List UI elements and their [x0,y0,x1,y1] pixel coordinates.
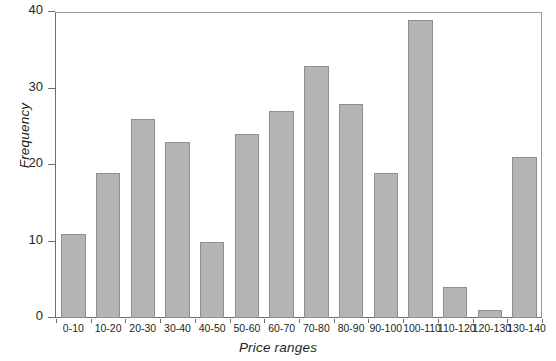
x-tick-label: 0-10 [56,322,91,334]
y-tick-label: 20 [29,155,43,170]
bar [374,173,398,318]
x-axis-label: Price ranges [0,340,556,355]
x-tick-label: 110-120 [438,322,473,334]
x-tick-label: 10-20 [91,322,126,334]
x-tick-label: 30-40 [160,322,195,334]
x-tick-label: 50-60 [230,322,265,334]
y-tick-mark [48,11,55,12]
y-tick-label: 40 [29,2,43,17]
x-tick-label: 100-110 [403,322,438,334]
y-tick-mark [48,164,55,165]
x-tick-label: 80-90 [334,322,369,334]
bar [304,66,328,318]
x-tick-label: 40-50 [195,322,230,334]
bar [96,173,120,318]
bar [131,119,155,318]
x-tick-mark [542,319,543,323]
y-tick-mark [48,317,55,318]
bar [235,134,259,318]
y-tick-mark [48,241,55,242]
histogram-chart: Frequency 010203040 0-1010-2020-3030-404… [0,0,556,361]
bar [478,310,502,318]
bar [200,242,224,319]
x-tick-label: 20-30 [125,322,160,334]
x-tick-label: 70-80 [299,322,334,334]
y-axis-label: Frequency [17,76,32,196]
bar [339,104,363,318]
bar [512,157,536,318]
bar [408,20,432,318]
y-tick-mark [48,88,55,89]
bar [165,142,189,318]
bar [269,111,293,318]
x-tick-label: 90-100 [368,322,403,334]
bar [443,287,467,318]
bar [61,234,85,318]
x-axis: 0-1010-2020-3030-4040-5050-6060-7070-808… [56,319,542,341]
y-tick-label: 30 [29,79,43,94]
y-tick-label: 0 [36,308,43,323]
x-tick-label: 60-70 [264,322,299,334]
x-tick-label: 120-130 [473,322,508,334]
y-tick-label: 10 [29,232,43,247]
bars-container [56,12,542,318]
x-tick-label: 130-140 [507,322,542,334]
